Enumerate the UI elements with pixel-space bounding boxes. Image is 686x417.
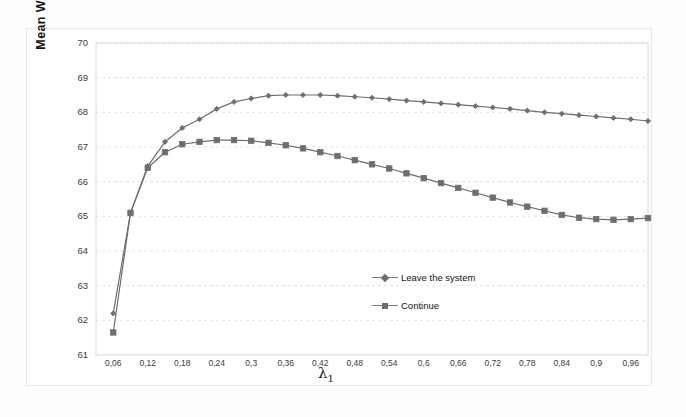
data-point-marker — [214, 106, 219, 111]
data-point-marker — [283, 143, 288, 148]
legend-label: Continue — [401, 300, 439, 311]
data-point-marker — [473, 190, 478, 195]
data-point-marker — [645, 118, 650, 123]
data-point-marker — [473, 103, 478, 108]
data-point-marker — [145, 165, 150, 170]
legend-item-leave-the-system: Leave the system — [372, 272, 475, 283]
data-point-marker — [335, 153, 340, 158]
data-point-marker — [318, 92, 323, 97]
data-point-marker — [421, 99, 426, 104]
data-point-marker — [266, 93, 271, 98]
data-point-marker — [249, 138, 254, 143]
data-point-marker — [180, 142, 185, 147]
data-point-marker — [318, 150, 323, 155]
data-point-marker — [490, 105, 495, 110]
data-point-marker — [438, 180, 443, 185]
data-point-marker — [197, 139, 202, 144]
data-point-marker — [576, 113, 581, 118]
data-point-marker — [300, 146, 305, 151]
data-point-marker — [645, 215, 650, 220]
data-point-marker — [352, 157, 357, 162]
data-point-marker — [438, 101, 443, 106]
data-point-marker — [404, 98, 409, 103]
data-point-marker — [559, 212, 564, 217]
data-point-marker — [490, 195, 495, 200]
data-point-marker — [162, 150, 167, 155]
legend-marker-square-icon — [372, 301, 398, 311]
data-point-marker — [611, 115, 616, 120]
data-point-marker — [128, 210, 133, 215]
data-point-marker — [456, 102, 461, 107]
data-point-marker — [611, 217, 616, 222]
data-point-marker — [542, 110, 547, 115]
data-point-marker — [231, 137, 236, 142]
data-point-marker — [197, 117, 202, 122]
data-point-marker — [387, 166, 392, 171]
data-point-marker — [421, 176, 426, 181]
legend-label: Leave the system — [401, 272, 475, 283]
data-point-marker — [214, 137, 219, 142]
legend-marker-diamond-icon — [372, 273, 398, 283]
data-point-marker — [594, 216, 599, 221]
data-series-layer — [111, 92, 651, 335]
data-point-marker — [507, 106, 512, 111]
legend-item-continue: Continue — [372, 300, 439, 311]
data-point-marker — [628, 117, 633, 122]
data-point-marker — [525, 204, 530, 209]
data-point-marker — [352, 94, 357, 99]
data-point-marker — [542, 208, 547, 213]
data-point-marker — [456, 185, 461, 190]
data-point-marker — [594, 114, 599, 119]
chart-figure: Mean Waiting Time λ1 6162636465666768697… — [0, 0, 686, 417]
data-point-marker — [249, 96, 254, 101]
plot-canvas — [0, 0, 686, 417]
data-point-marker — [507, 200, 512, 205]
data-point-marker — [283, 92, 288, 97]
data-point-marker — [628, 216, 633, 221]
data-point-marker — [111, 311, 116, 316]
data-point-marker — [111, 330, 116, 335]
data-point-marker — [335, 93, 340, 98]
data-point-marker — [404, 171, 409, 176]
data-point-marker — [369, 162, 374, 167]
data-point-marker — [369, 95, 374, 100]
data-point-marker — [266, 140, 271, 145]
data-point-marker — [231, 99, 236, 104]
data-point-marker — [576, 215, 581, 220]
data-point-marker — [387, 97, 392, 102]
data-point-marker — [300, 92, 305, 97]
